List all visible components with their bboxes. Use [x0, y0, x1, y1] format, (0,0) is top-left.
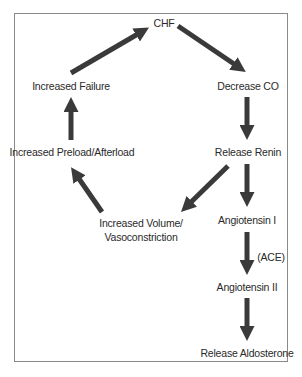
node-increased-volume-line1: Increased Volume/	[99, 216, 183, 230]
node-angiotensin-1: Angiotensin I	[218, 213, 276, 227]
arrows-layer	[0, 0, 302, 377]
arrow-failure-to-chf	[71, 31, 143, 73]
node-release-renin: Release Renin	[215, 145, 281, 159]
node-decrease-co: Decrease CO	[217, 79, 278, 93]
node-increased-failure: Increased Failure	[32, 79, 110, 93]
node-angiotensin-2: Angiotensin II	[217, 280, 278, 294]
node-increased-preload: Increased Preload/Afterload	[10, 145, 135, 159]
arrow-renin-to-volume	[186, 166, 228, 207]
node-chf: CHF	[154, 16, 175, 30]
arrow-volume-to-preload	[75, 173, 102, 212]
arrow-chf-to-decrease-co	[178, 26, 240, 68]
node-release-aldosterone: Release Aldosterone	[200, 346, 293, 360]
node-increased-volume-line2: Vasoconstriction	[104, 230, 177, 244]
edge-label-ace: (ACE)	[257, 250, 285, 264]
